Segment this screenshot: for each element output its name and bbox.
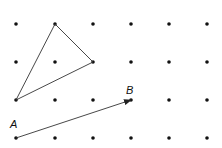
grid-dot bbox=[53, 60, 57, 64]
grid-dot bbox=[205, 60, 209, 64]
grid-dot bbox=[53, 136, 57, 140]
label-a: A bbox=[10, 119, 17, 130]
geometry-diagram: A B bbox=[0, 0, 222, 148]
grid-dot bbox=[167, 98, 171, 102]
grid-dot bbox=[129, 136, 133, 140]
grid-dot bbox=[53, 98, 57, 102]
vector-arrow-ab bbox=[16, 100, 131, 138]
grid-dot bbox=[205, 136, 209, 140]
grid-dot bbox=[205, 98, 209, 102]
grid-dot bbox=[129, 60, 133, 64]
grid-dot bbox=[91, 22, 95, 26]
grid-dot bbox=[91, 136, 95, 140]
grid-dot bbox=[167, 136, 171, 140]
grid-dots bbox=[14, 22, 209, 140]
grid-dot bbox=[205, 22, 209, 26]
grid-dot bbox=[167, 22, 171, 26]
grid-dot bbox=[14, 22, 18, 26]
grid-dot bbox=[91, 98, 95, 102]
dot-grid bbox=[0, 0, 222, 148]
label-b: B bbox=[126, 85, 133, 96]
grid-dot bbox=[129, 22, 133, 26]
grid-dot bbox=[14, 60, 18, 64]
grid-dot bbox=[167, 60, 171, 64]
